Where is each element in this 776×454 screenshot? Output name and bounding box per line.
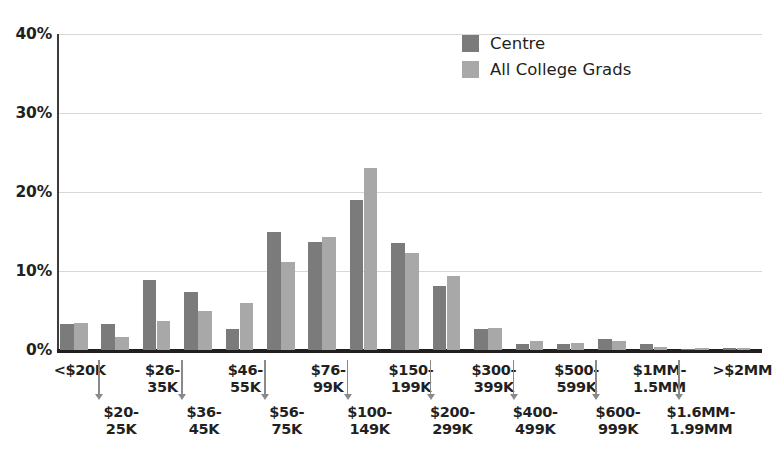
legend-label-all-college-grads: All College Grads xyxy=(490,60,631,79)
bar-all-college-grads xyxy=(447,276,461,350)
legend: Centre All College Grads xyxy=(462,30,692,82)
bar-all-college-grads xyxy=(198,311,212,351)
bar-all-college-grads xyxy=(488,328,502,350)
bar-all-college-grads xyxy=(364,168,378,350)
y-tick-10: 10% xyxy=(4,262,52,280)
bar-group xyxy=(143,34,184,350)
legend-swatch-icon-centre xyxy=(462,35,479,52)
x-tick-label: $36- 45K xyxy=(162,404,246,438)
y-tick-40: 40% xyxy=(4,25,52,43)
bar-all-college-grads xyxy=(322,237,336,350)
x-tick-label: >$2MM xyxy=(700,362,776,379)
bar-centre xyxy=(557,344,571,350)
x-tick-label: <$20K xyxy=(38,362,122,379)
bar-centre xyxy=(308,242,322,350)
bar-group xyxy=(226,34,267,350)
legend-swatch-icon-all-college-grads xyxy=(462,61,479,78)
bar-group xyxy=(101,34,142,350)
x-tick-label: $600- 999K xyxy=(576,404,660,438)
bar-all-college-grads xyxy=(571,343,585,350)
x-tick-label: $200- 299K xyxy=(410,404,494,438)
legend-item-all-college-grads: All College Grads xyxy=(462,56,692,82)
bar-group xyxy=(350,34,391,350)
bar-centre xyxy=(598,339,612,350)
bar-group xyxy=(184,34,225,350)
x-tick-label: $1.6MM- 1.99MM xyxy=(659,404,743,438)
bar-all-college-grads xyxy=(74,323,88,350)
bar-all-college-grads xyxy=(281,262,295,350)
bar-group xyxy=(60,34,101,350)
bar-centre xyxy=(640,344,654,350)
x-tick-label: $400- 499K xyxy=(493,404,577,438)
bar-all-college-grads xyxy=(654,347,668,350)
bar-centre xyxy=(391,243,405,350)
bar-group xyxy=(308,34,349,350)
bar-centre xyxy=(226,329,240,350)
legend-item-centre: Centre xyxy=(462,30,692,56)
bar-all-college-grads xyxy=(612,341,626,350)
bar-centre xyxy=(474,329,488,350)
x-tick-label: $56- 75K xyxy=(245,404,329,438)
y-tick-30: 30% xyxy=(4,104,52,122)
bar-centre xyxy=(101,324,115,350)
bar-group xyxy=(391,34,432,350)
bar-centre xyxy=(433,286,447,350)
bar-all-college-grads xyxy=(405,253,419,350)
bar-centre xyxy=(516,344,530,350)
bar-centre xyxy=(143,280,157,350)
bar-centre xyxy=(267,232,281,351)
x-tick-label: $500- 599K xyxy=(535,362,619,396)
bar-all-college-grads xyxy=(240,303,254,350)
x-tick-label: $26- 35K xyxy=(121,362,205,396)
bar-all-college-grads xyxy=(695,348,709,350)
x-axis-labels: <$20K$20- 25K$26- 35K$36- 45K$46- 55K$56… xyxy=(0,356,771,454)
x-tick-label: $150- 199K xyxy=(369,362,453,396)
bar-group xyxy=(723,34,764,350)
bar-all-college-grads xyxy=(737,348,751,350)
x-tick-label: $20- 25K xyxy=(79,404,163,438)
bar-centre xyxy=(184,292,198,350)
x-tick-label: $46- 55K xyxy=(203,362,287,396)
bar-centre xyxy=(681,349,695,350)
x-tick-label: $1MM- 1.5MM xyxy=(617,362,701,396)
bar-centre xyxy=(723,348,737,350)
x-tick-label: $76- 99K xyxy=(286,362,370,396)
x-tick-label: $100- 149K xyxy=(328,404,412,438)
x-tick-label: $300- 399K xyxy=(452,362,536,396)
y-tick-20: 20% xyxy=(4,183,52,201)
bar-group xyxy=(267,34,308,350)
bar-all-college-grads xyxy=(530,341,544,350)
bar-centre xyxy=(350,200,364,350)
legend-label-centre: Centre xyxy=(490,34,545,53)
bar-centre xyxy=(60,324,74,350)
bar-all-college-grads xyxy=(115,337,129,350)
bar-all-college-grads xyxy=(157,321,171,350)
